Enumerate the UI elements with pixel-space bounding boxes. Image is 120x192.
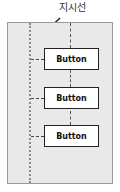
alignment-dashed-line-mid1 <box>70 70 71 87</box>
button-1[interactable]: Button <box>44 48 99 70</box>
layout-panel: Button Button Button <box>7 22 113 184</box>
button-3[interactable]: Button <box>44 125 99 147</box>
guide-connector-1 <box>31 59 44 60</box>
guide-connector-3 <box>31 136 44 137</box>
alignment-dashed-line-mid2 <box>70 111 71 125</box>
vertical-guideline <box>29 23 31 183</box>
alignment-dashed-line-top <box>70 23 71 48</box>
guide-connector-2 <box>31 98 44 99</box>
button-2[interactable]: Button <box>44 87 99 109</box>
